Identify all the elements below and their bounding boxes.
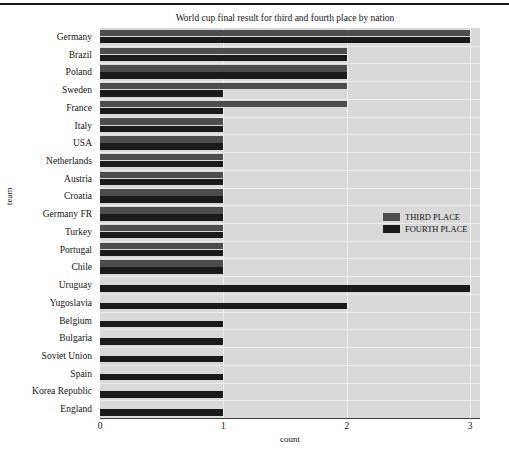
bar-sweden-third-place: [100, 83, 347, 89]
y-tick-label-korea-republic: Korea Republic: [32, 386, 92, 396]
y-tick-label-soviet-union: Soviet Union: [42, 351, 92, 361]
y-tick-label-yugoslavia: Yugoslavia: [50, 298, 92, 308]
legend-item-fourth-place: FOURTH PLACE: [383, 224, 468, 234]
row-separator: [100, 294, 480, 295]
row-separator: [100, 365, 480, 366]
bar-usa-third-place: [100, 136, 223, 142]
y-tick-label-netherlands: Netherlands: [46, 156, 92, 166]
chart-legend: THIRD PLACE FOURTH PLACE: [383, 212, 468, 236]
x-tick-label-1: 1: [221, 421, 226, 431]
bar-sweden-fourth-place: [100, 90, 223, 96]
bar-portugal-fourth-place: [100, 250, 223, 256]
y-tick-label-italy: Italy: [75, 121, 92, 131]
bar-uruguay-fourth-place: [100, 285, 470, 291]
bar-turkey-third-place: [100, 225, 223, 231]
chart-figure: World cup final result for third and fou…: [0, 0, 509, 450]
bar-italy-fourth-place: [100, 126, 223, 132]
y-tick-label-england: England: [60, 404, 92, 414]
legend-item-third-place: THIRD PLACE: [383, 212, 468, 222]
y-tick-label-germany: Germany: [57, 32, 92, 42]
x-tick-label-0: 0: [98, 421, 103, 431]
y-tick-label-bulgaria: Bulgaria: [59, 333, 92, 343]
bar-spain-fourth-place: [100, 374, 223, 380]
bar-germany-fr-third-place: [100, 207, 223, 213]
bar-belgium-fourth-place: [100, 321, 223, 327]
bar-soviet-union-fourth-place: [100, 356, 223, 362]
y-axis-title: team: [4, 188, 14, 206]
x-tick-label-3: 3: [468, 421, 473, 431]
y-tick-label-belgium: Belgium: [59, 316, 92, 326]
bar-poland-third-place: [100, 65, 347, 71]
bar-usa-fourth-place: [100, 143, 223, 149]
bar-germany-third-place: [100, 30, 470, 36]
bar-germany-fourth-place: [100, 37, 470, 43]
y-tick-label-austria: Austria: [64, 174, 92, 184]
row-separator: [100, 276, 480, 277]
y-tick-label-brazil: Brazil: [69, 50, 92, 60]
bar-england-fourth-place: [100, 409, 223, 415]
bar-poland-fourth-place: [100, 72, 347, 78]
y-tick-label-germany-fr: Germany FR: [43, 209, 92, 219]
row-separator: [100, 400, 480, 401]
y-tick-label-turkey: Turkey: [65, 227, 92, 237]
row-separator: [100, 383, 480, 384]
y-tick-label-france: France: [66, 103, 92, 113]
bar-bulgaria-fourth-place: [100, 338, 223, 344]
bar-portugal-third-place: [100, 243, 223, 249]
y-tick-label-uruguay: Uruguay: [59, 280, 92, 290]
y-tick-label-usa: USA: [73, 138, 92, 148]
legend-label-fourth-place: FOURTH PLACE: [405, 224, 468, 234]
bar-austria-fourth-place: [100, 179, 223, 185]
chart-title: World cup final result for third and fou…: [100, 13, 470, 23]
top-divider: [0, 3, 509, 5]
bar-brazil-fourth-place: [100, 55, 347, 61]
y-tick-label-chile: Chile: [71, 262, 92, 272]
bar-germany-fr-fourth-place: [100, 214, 223, 220]
y-tick-label-portugal: Portugal: [60, 245, 92, 255]
row-separator: [100, 329, 480, 330]
row-separator: [100, 312, 480, 313]
bar-brazil-third-place: [100, 48, 347, 54]
bar-turkey-fourth-place: [100, 232, 223, 238]
x-tick-label-2: 2: [344, 421, 349, 431]
bar-netherlands-fourth-place: [100, 161, 223, 167]
bar-france-third-place: [100, 101, 347, 107]
row-separator: [100, 347, 480, 348]
bar-italy-third-place: [100, 118, 223, 124]
legend-swatch-icon-third-place: [383, 213, 400, 221]
bar-austria-third-place: [100, 172, 223, 178]
x-axis-title: count: [100, 434, 480, 444]
bar-croatia-third-place: [100, 189, 223, 195]
y-tick-label-croatia: Croatia: [64, 191, 92, 201]
y-tick-label-sweden: Sweden: [62, 85, 92, 95]
bar-france-fourth-place: [100, 108, 223, 114]
bar-yugoslavia-fourth-place: [100, 303, 347, 309]
x-axis-ticks: 0123: [100, 419, 480, 435]
bar-croatia-fourth-place: [100, 196, 223, 202]
bar-korea-republic-fourth-place: [100, 391, 223, 397]
y-axis-tick-labels: GermanyBrazilPolandSwedenFranceItalyUSAN…: [0, 28, 96, 418]
bar-netherlands-third-place: [100, 154, 223, 160]
y-tick-label-poland: Poland: [66, 67, 92, 77]
legend-swatch-icon-fourth-place: [383, 225, 400, 233]
bar-chile-fourth-place: [100, 267, 223, 273]
legend-label-third-place: THIRD PLACE: [405, 212, 460, 222]
bar-chile-third-place: [100, 260, 223, 266]
y-tick-label-spain: Spain: [70, 369, 92, 379]
